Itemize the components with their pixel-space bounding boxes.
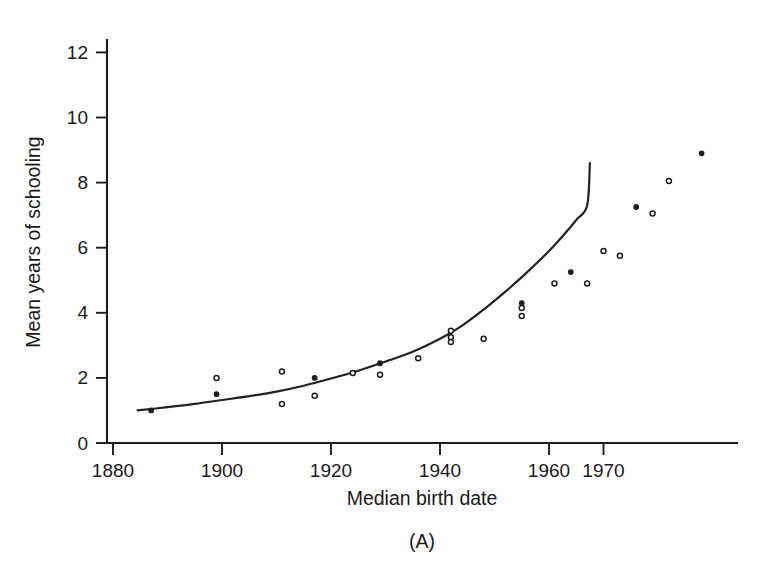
data-point — [569, 270, 574, 275]
data-point — [279, 369, 284, 374]
data-point — [214, 392, 219, 397]
y-tick-label: 4 — [77, 302, 88, 323]
x-axis-label: Median birth date — [347, 487, 498, 509]
y-tick-label: 10 — [67, 107, 88, 128]
data-point — [149, 408, 154, 413]
data-point — [585, 281, 590, 286]
data-point — [378, 361, 383, 366]
data-point — [519, 301, 524, 306]
data-point — [214, 375, 219, 380]
y-tick-label: 8 — [77, 172, 88, 193]
x-tick-label: 1880 — [92, 460, 134, 481]
data-point — [699, 151, 704, 156]
data-point — [448, 328, 453, 333]
x-tick-label: 1960 — [528, 460, 570, 481]
data-point — [481, 336, 486, 341]
data-point — [378, 372, 383, 377]
y-tick-label: 0 — [77, 433, 88, 454]
y-tick-label: 12 — [67, 42, 88, 63]
data-points — [149, 151, 704, 413]
scatter-chart: 024681012 188019001920194019601970 Mean … — [0, 0, 780, 571]
data-point — [650, 211, 655, 216]
data-point — [601, 248, 606, 253]
data-point — [519, 314, 524, 319]
figure-panel-a: 024681012 188019001920194019601970 Mean … — [0, 0, 780, 571]
y-tick-label: 2 — [77, 367, 88, 388]
data-point — [552, 281, 557, 286]
y-tick-label: 6 — [77, 237, 88, 258]
x-axis-ticks: 188019001920194019601970 — [92, 443, 625, 481]
data-point — [312, 393, 317, 398]
x-tick-label: 1940 — [419, 460, 461, 481]
data-point — [416, 356, 421, 361]
trend-line — [138, 163, 590, 410]
data-point — [519, 305, 524, 310]
data-point — [312, 376, 317, 381]
data-point — [448, 340, 453, 345]
x-tick-label: 1970 — [582, 460, 624, 481]
data-point — [617, 253, 622, 258]
data-point — [666, 178, 671, 183]
y-axis-label: Mean years of schooling — [22, 136, 44, 347]
panel-caption: (A) — [409, 530, 435, 552]
x-tick-label: 1920 — [310, 460, 352, 481]
data-point — [279, 401, 284, 406]
y-axis-ticks: 024681012 — [67, 42, 107, 454]
data-point — [634, 205, 639, 210]
x-tick-label: 1900 — [201, 460, 243, 481]
data-point — [350, 371, 355, 376]
